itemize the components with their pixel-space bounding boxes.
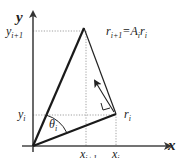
rotation-arrow [95, 81, 114, 112]
tick-label-y-cur: yi [18, 108, 26, 123]
point-label-r-cur: ri [124, 108, 131, 123]
point-label-r-next: ri+1=Airi [106, 25, 147, 40]
tick-label-y-next: yi+1 [6, 25, 23, 40]
diagram-graphics [0, 0, 181, 158]
tick-label-x-next: xi+1 [80, 148, 97, 158]
rotation-diagram: y x yi+1 yi xi+1 xi ri+1=Airi ri θi [0, 0, 181, 158]
y-axis-label: y [16, 10, 23, 25]
side-line [84, 28, 116, 114]
vectors [33, 28, 116, 146]
tick-label-x-cur: xi [112, 148, 120, 158]
angle-label-theta: θi [49, 118, 57, 133]
x-axis-label: x [168, 138, 176, 153]
